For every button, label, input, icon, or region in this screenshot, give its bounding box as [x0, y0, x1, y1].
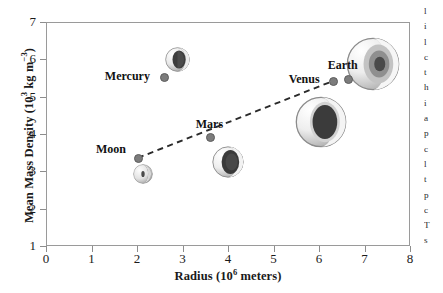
x-axis-title-main: Radius (10: [175, 269, 233, 283]
body-text-line: l: [424, 157, 443, 172]
x-tick-label: 5: [262, 251, 286, 266]
body-text-line: l: [424, 35, 443, 50]
point-label-earth: Earth: [328, 59, 358, 72]
point-label-mars: Mars: [196, 118, 223, 131]
body-text-line: p: [424, 188, 443, 203]
body-text-line: c: [424, 203, 443, 218]
x-tick-label: 8: [398, 251, 422, 266]
x-tick-label: 7: [353, 251, 377, 266]
point-label-moon: Moon: [96, 143, 126, 156]
y-tick-mark: [40, 246, 46, 247]
point-label-venus: Venus: [289, 73, 320, 86]
body-text-line: T: [424, 218, 443, 233]
x-tick-label: 3: [171, 251, 195, 266]
y-tick-mark: [40, 209, 46, 210]
x-tick-label: 0: [34, 251, 58, 266]
data-point-earth[interactable]: [344, 75, 353, 84]
body-text-column-sliver: lilcthiapcltpcTs: [424, 4, 443, 289]
x-axis-title: Radius (106 meters): [46, 269, 410, 284]
x-tick-label: 2: [125, 251, 149, 266]
x-tick-label: 4: [216, 251, 240, 266]
body-text-line: p: [424, 126, 443, 141]
y-axis-title-b: kg m: [22, 62, 36, 92]
mercury-sphere-icon: [165, 47, 190, 72]
y-axis-title-c: ): [22, 48, 36, 52]
body-text-line: t: [424, 65, 443, 80]
body-text-line: c: [424, 50, 443, 65]
venus-sphere-icon: [295, 96, 347, 148]
mars-sphere-icon: [212, 146, 244, 178]
x-tick-label: 6: [307, 251, 331, 266]
x-axis-title-tail: meters): [237, 269, 281, 283]
y-tick-mark: [40, 134, 46, 135]
figure-planet-density-vs-radius: 0123456781234567: [0, 0, 443, 293]
y-axis-title-a: Mean Mass Density (10: [22, 96, 36, 223]
body-text-line: t: [424, 172, 443, 187]
y-tick-mark: [40, 97, 46, 98]
body-text-line: h: [424, 80, 443, 95]
y-axis-title: Mean Mass Density (103 kg m−3): [22, 11, 37, 261]
y-axis-title-exponent-1: 3: [19, 92, 29, 96]
body-text-line: l: [424, 4, 443, 19]
y-axis-title-exponent-2: −3: [19, 52, 29, 61]
body-text-line: i: [424, 96, 443, 111]
body-text-line: c: [424, 142, 443, 157]
y-tick-mark: [40, 22, 46, 23]
y-tick-mark: [40, 171, 46, 172]
body-text-line: a: [424, 111, 443, 126]
x-tick-label: 1: [80, 251, 104, 266]
point-label-mercury: Mercury: [105, 70, 150, 83]
body-text-line: i: [424, 19, 443, 34]
body-text-line: s: [424, 233, 443, 248]
y-tick-mark: [40, 59, 46, 60]
